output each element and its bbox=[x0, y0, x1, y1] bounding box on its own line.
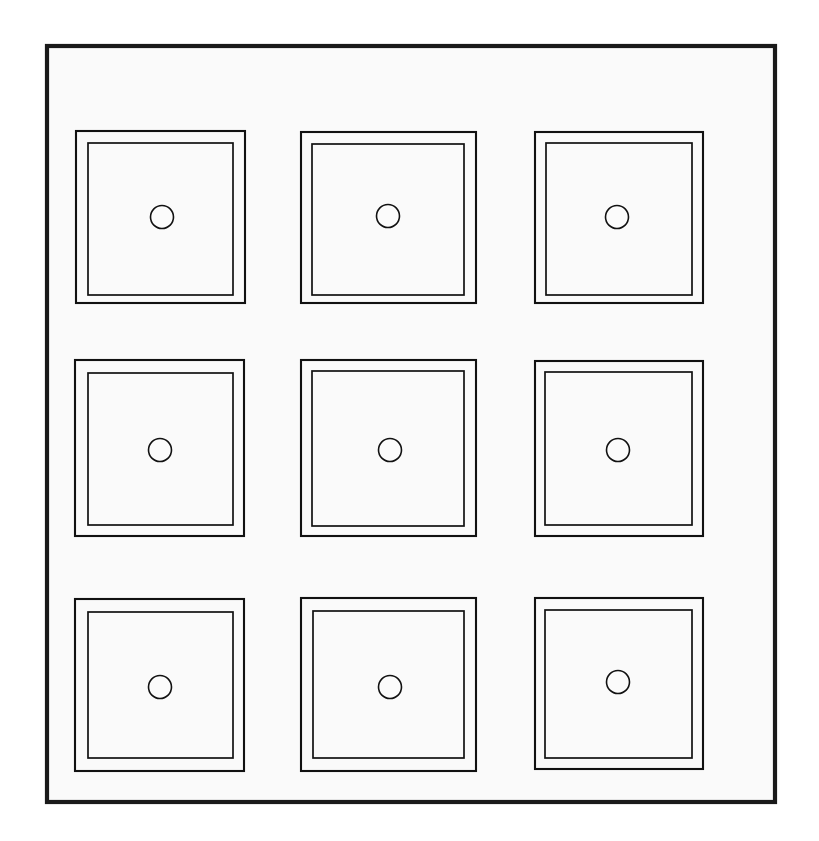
tile-center-hole-circle-icon bbox=[607, 439, 630, 462]
tile-center-hole-circle-icon bbox=[151, 206, 174, 229]
tile-center-hole-circle-icon bbox=[607, 671, 630, 694]
line-drawing bbox=[0, 0, 819, 841]
tile-center-hole-circle-icon bbox=[149, 676, 172, 699]
tile-center-hole-circle-icon bbox=[149, 439, 172, 462]
tile-center-hole-circle-icon bbox=[377, 205, 400, 228]
tile-center-hole-circle-icon bbox=[379, 439, 402, 462]
tile-center-hole-circle-icon bbox=[606, 206, 629, 229]
drawing-canvas bbox=[0, 0, 819, 841]
tile-center-hole-circle-icon bbox=[379, 676, 402, 699]
